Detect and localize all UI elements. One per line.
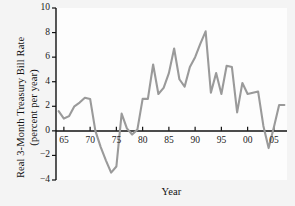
chart-axes <box>56 8 287 180</box>
y-axis-title-line2: (percent per year) <box>27 22 40 192</box>
x-tick-label: 75 <box>112 136 122 146</box>
chart-figure: 1086420−2−4 657075808590950005 Real 3-Mo… <box>0 0 295 206</box>
data-series-line <box>59 31 285 172</box>
x-tick-label: 00 <box>243 136 253 146</box>
x-tick-label: 95 <box>217 136 227 146</box>
x-axis-title: Year <box>56 186 287 197</box>
y-axis-title-line1: Real 3-Month Treasury Bill Rate <box>15 37 26 178</box>
x-tick-label: 65 <box>59 136 69 146</box>
x-tick-label: 85 <box>164 136 174 146</box>
x-tick-label: 70 <box>85 136 95 146</box>
x-tick-label: 80 <box>138 136 148 146</box>
x-tick-label: 05 <box>269 136 279 146</box>
y-tick-label: 10 <box>22 3 50 13</box>
x-tick-label: 90 <box>190 136 200 146</box>
y-axis-title: Real 3-Month Treasury Bill Rate (percent… <box>14 22 41 192</box>
